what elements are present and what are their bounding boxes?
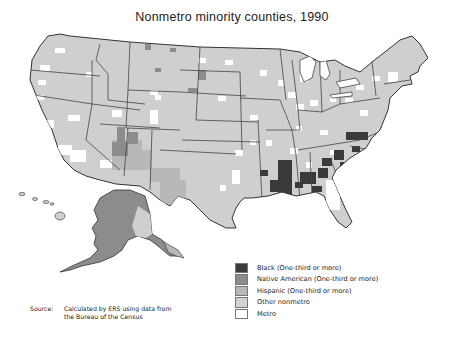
- legend-item-hispanic: Hispanic (One-third or more): [235, 285, 378, 297]
- legend-swatch-hispanic: [235, 286, 248, 297]
- hawaii: [19, 192, 65, 220]
- legend-swatch-metro: [235, 309, 248, 320]
- legend-item-native-american: Native American (One-third or more): [235, 274, 378, 286]
- source-line-2: the Bureau of the Census: [30, 313, 171, 320]
- legend-label: Metro: [257, 310, 276, 318]
- legend-item-metro: Metro: [235, 308, 378, 320]
- source-line-1: Calculated by ERS using data from: [64, 305, 171, 312]
- lower-48-states: [30, 34, 428, 228]
- us-county-map: [0, 0, 464, 349]
- legend-swatch-native-american: [235, 274, 248, 285]
- legend-item-other-nonmetro: Other nonmetro: [235, 297, 378, 309]
- legend-label: Native American (One-third or more): [257, 275, 378, 283]
- legend: Black (One-third or more) Native America…: [235, 262, 378, 320]
- legend-swatch-black: [235, 263, 248, 274]
- legend-label: Other nonmetro: [257, 298, 310, 306]
- legend-label: Black (One-third or more): [257, 264, 341, 272]
- source-label: Source:: [30, 305, 64, 312]
- legend-swatch-other-nonmetro: [235, 297, 248, 308]
- legend-item-black: Black (One-third or more): [235, 262, 378, 274]
- legend-label: Hispanic (One-third or more): [257, 287, 352, 295]
- source-note: Source:Calculated by ERS using data from…: [30, 305, 171, 320]
